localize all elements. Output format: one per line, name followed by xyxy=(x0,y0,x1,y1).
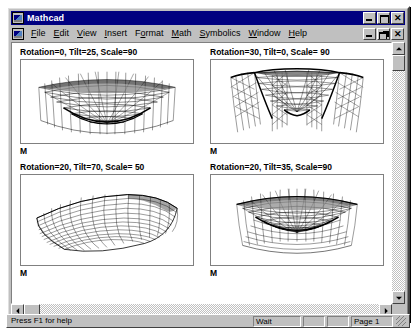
surface-plot-2[interactable] xyxy=(210,59,384,144)
plot-label-4: Rotation=20, Tilt=35, Scale=90 xyxy=(210,162,386,172)
status-pane-blank2 xyxy=(327,316,349,327)
menu-bar: File Edit View Insert Format Math Symbol… xyxy=(11,26,405,41)
surface-plot-3[interactable] xyxy=(20,174,194,266)
window-title: Mathcad xyxy=(27,12,363,24)
maximize-button[interactable] xyxy=(377,12,390,24)
menu-item-view[interactable]: View xyxy=(73,27,100,40)
menu-item-window[interactable]: Window xyxy=(245,27,285,40)
plot-variable-2: M xyxy=(210,146,386,156)
menu-item-help[interactable]: Help xyxy=(285,27,312,40)
plot-label-3: Rotation=20, Tilt=70, Scale= 50 xyxy=(20,162,196,172)
minimize-button[interactable] xyxy=(363,12,376,24)
plot-variable-3: M xyxy=(20,268,196,278)
document-restore-button[interactable] xyxy=(377,28,390,40)
plot-label-2: Rotation=30, Tilt=0, Scale= 90 xyxy=(210,47,386,57)
document-window-controls: ✕ xyxy=(363,28,404,40)
plot-label-1: Rotation=0, Tilt=25, Scale=90 xyxy=(20,47,196,57)
plot-variable-4: M xyxy=(210,268,386,278)
menu-item-edit[interactable]: Edit xyxy=(50,27,74,40)
plot-variable-1: M xyxy=(20,146,196,156)
menu-item-file[interactable]: File xyxy=(27,27,50,40)
document-minimize-button[interactable] xyxy=(363,28,376,40)
status-pane-wait: Wait xyxy=(253,316,301,327)
status-pane-blank1 xyxy=(303,316,325,327)
close-button[interactable]: ✕ xyxy=(391,12,404,24)
surface-plot-3-graphic xyxy=(21,175,193,265)
vertical-scrollbar[interactable] xyxy=(392,42,405,304)
document-close-button[interactable]: ✕ xyxy=(391,28,404,40)
mathcad-icon xyxy=(12,12,24,24)
surface-plot-4[interactable] xyxy=(210,174,384,266)
resize-grip[interactable] xyxy=(395,315,407,327)
menu-item-insert[interactable]: Insert xyxy=(100,27,131,40)
plot-cell-3: Rotation=20, Tilt=70, Scale= 50 xyxy=(20,162,196,278)
worksheet-page[interactable]: Rotation=0, Tilt=25, Scale=90 xyxy=(11,42,392,304)
plot-cell-2: Rotation=30, Tilt=0, Scale= 90 xyxy=(210,47,386,156)
menu-item-symbolics[interactable]: Symbolics xyxy=(195,27,244,40)
surface-plot-4-graphic xyxy=(211,175,383,265)
scroll-down-arrow[interactable] xyxy=(392,291,405,304)
surface-plot-1[interactable] xyxy=(20,59,194,144)
status-bar: Press F1 for help Wait Page 1 xyxy=(6,314,410,328)
document-icon[interactable] xyxy=(12,28,24,40)
application-window-inner: Mathcad ✕ File Edit View Insert Format M… xyxy=(8,8,408,320)
vertical-scrollbar-thumb[interactable] xyxy=(392,55,405,71)
application-window: Mathcad ✕ File Edit View Insert Format M… xyxy=(6,6,410,322)
menu-item-math[interactable]: Math xyxy=(167,27,195,40)
scroll-up-arrow[interactable] xyxy=(392,42,405,55)
surface-plot-2-graphic xyxy=(211,60,383,143)
plot-cell-4: Rotation=20, Tilt=35, Scale=90 xyxy=(210,162,386,278)
menu-item-format[interactable]: Format xyxy=(131,27,168,40)
title-bar[interactable]: Mathcad ✕ xyxy=(11,11,405,25)
plot-cell-1: Rotation=0, Tilt=25, Scale=90 xyxy=(20,47,196,156)
status-help-text: Press F1 for help xyxy=(9,316,251,326)
document-client-area: Rotation=0, Tilt=25, Scale=90 xyxy=(11,42,405,317)
window-controls: ✕ xyxy=(363,12,404,24)
status-pane-page: Page 1 xyxy=(351,316,393,327)
surface-plot-1-graphic xyxy=(21,60,193,143)
